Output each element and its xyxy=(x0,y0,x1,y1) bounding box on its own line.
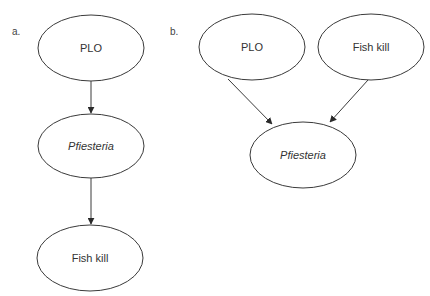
panel-b-label: b. xyxy=(170,26,178,37)
edge-fishkill-to-pfiesteria xyxy=(330,80,368,122)
node-pfiesteria: Pfiesteria xyxy=(38,114,144,178)
node-label: PLO xyxy=(80,42,102,54)
node-fish-kill: Fish kill xyxy=(318,14,424,80)
panel-a: a. PLO Pfiesteria Fish kill xyxy=(12,15,144,291)
node-label: Fish kill xyxy=(353,41,390,53)
node-label: PLO xyxy=(241,41,263,53)
edge-plo-to-pfiesteria xyxy=(228,79,272,124)
causal-diagram: a. PLO Pfiesteria Fish kill b. PLO Fish … xyxy=(0,0,430,296)
node-label: Pfiesteria xyxy=(68,140,114,152)
node-label: Pfiesteria xyxy=(280,149,326,161)
node-pfiesteria: Pfiesteria xyxy=(250,122,356,188)
node-plo: PLO xyxy=(38,15,144,81)
panel-b: b. PLO Fish kill Pfiesteria xyxy=(170,14,424,188)
node-plo: PLO xyxy=(199,14,305,80)
panel-a-label: a. xyxy=(12,26,20,37)
node-label: Fish kill xyxy=(72,252,109,264)
node-fish-kill: Fish kill xyxy=(37,225,143,291)
